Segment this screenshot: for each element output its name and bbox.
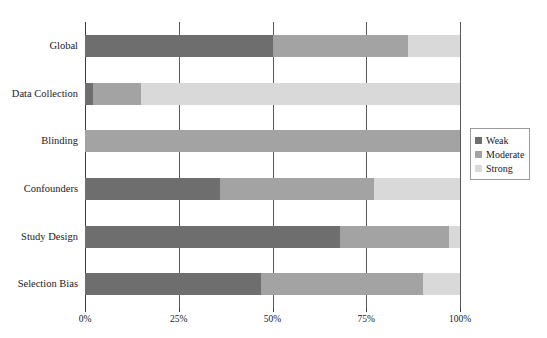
bar-segment-strong xyxy=(141,83,460,105)
legend-swatch-strong-icon xyxy=(475,165,482,172)
y-axis-label-study-design: Study Design xyxy=(0,226,78,248)
bar-segment-weak xyxy=(85,226,340,248)
bar-segment-strong xyxy=(423,273,461,295)
gridline-25 xyxy=(179,22,180,308)
y-axis-label-selection-bias: Selection Bias xyxy=(0,273,78,295)
legend-label: Strong xyxy=(486,163,513,174)
y-axis-label-global: Global xyxy=(0,35,78,57)
x-tick-label-0: 0% xyxy=(79,314,92,324)
stacked-bar-chart: GlobalData CollectionBlindingConfounders… xyxy=(0,0,547,338)
x-tick-mark-100 xyxy=(460,308,461,312)
bar-confounders xyxy=(85,178,460,200)
bar-segment-moderate xyxy=(273,35,408,57)
y-axis-line xyxy=(85,22,86,308)
x-tick-label-50: 50% xyxy=(264,314,281,324)
y-axis-label-blinding: Blinding xyxy=(0,130,78,152)
bar-blinding xyxy=(85,130,460,152)
legend-label: Moderate xyxy=(486,149,524,160)
x-tick-label-25: 25% xyxy=(170,314,187,324)
gridline-100 xyxy=(460,22,461,308)
legend-swatch-weak-icon xyxy=(475,137,482,144)
bar-segment-moderate xyxy=(261,273,422,295)
bar-segment-weak xyxy=(85,178,220,200)
bar-study-design xyxy=(85,226,460,248)
bar-segment-moderate xyxy=(340,226,449,248)
x-tick-label-75: 75% xyxy=(358,314,375,324)
legend-label: Weak xyxy=(486,135,509,146)
bar-data-collection xyxy=(85,83,460,105)
chart-legend: WeakModerateStrong xyxy=(470,128,530,180)
y-axis-label-confounders: Confounders xyxy=(0,178,78,200)
bar-global xyxy=(85,35,460,57)
bar-segment-weak xyxy=(85,83,93,105)
gridline-50 xyxy=(273,22,274,308)
bar-segment-strong xyxy=(449,226,460,248)
bar-segment-weak xyxy=(85,35,273,57)
legend-item-moderate: Moderate xyxy=(475,147,524,161)
x-tick-mark-50 xyxy=(273,308,274,312)
gridline-75 xyxy=(366,22,367,308)
bar-segment-strong xyxy=(408,35,461,57)
bar-segment-moderate xyxy=(93,83,142,105)
legend-item-strong: Strong xyxy=(475,161,524,175)
bar-selection-bias xyxy=(85,273,460,295)
legend-item-weak: Weak xyxy=(475,133,524,147)
x-tick-label-100: 100% xyxy=(449,314,471,324)
bar-segment-moderate xyxy=(220,178,374,200)
bar-segment-moderate xyxy=(85,130,460,152)
x-tick-mark-75 xyxy=(366,308,367,312)
x-tick-mark-0 xyxy=(85,308,86,312)
plot-area xyxy=(85,22,460,308)
legend-swatch-moderate-icon xyxy=(475,151,482,158)
x-tick-mark-25 xyxy=(179,308,180,312)
bar-segment-strong xyxy=(374,178,460,200)
y-axis-label-data-collection: Data Collection xyxy=(0,83,78,105)
bar-segment-weak xyxy=(85,273,261,295)
